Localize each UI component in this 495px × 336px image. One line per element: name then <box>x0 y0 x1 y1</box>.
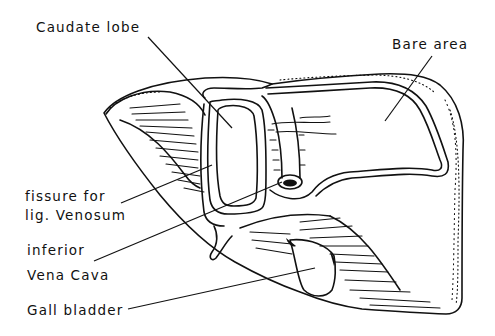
leader-bare-area <box>385 56 432 121</box>
liver-outline <box>104 74 463 314</box>
label-fissure-line2: lig. Venosum <box>25 206 126 224</box>
leader-gall-bladder <box>128 268 315 309</box>
label-fissure-line1: fissure for <box>25 187 106 205</box>
label-bare-area: Bare area <box>392 35 468 53</box>
right-lobe-striations <box>240 215 440 309</box>
label-caudate-lobe: Caudate lobe <box>36 18 140 36</box>
porta-hepatis <box>210 226 232 260</box>
leader-lines <box>94 37 432 309</box>
label-gall-bladder: Gall bladder <box>27 301 124 319</box>
label-ivc-line1: inferior <box>27 241 85 259</box>
gall-bladder-shape <box>286 238 335 296</box>
leader-caudate-lobe <box>148 37 232 128</box>
label-ivc-line2: Vena Cava <box>27 266 109 284</box>
left-lobe-striations <box>130 104 204 192</box>
inferior-vena-cava <box>262 96 336 189</box>
